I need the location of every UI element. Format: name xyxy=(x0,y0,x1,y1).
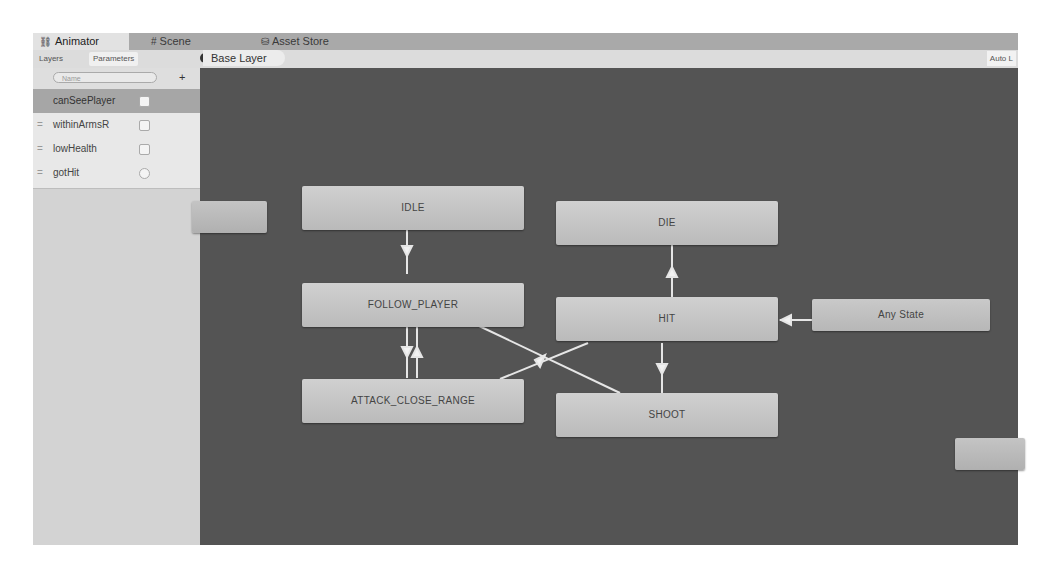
state-node-attack-close-range[interactable]: ATTACK_CLOSE_RANGE xyxy=(302,379,524,423)
tab-layers[interactable]: Layers xyxy=(35,52,67,66)
parameter-name: withinArmsR xyxy=(53,113,109,137)
tab-label: Scene xyxy=(160,35,191,47)
parameter-name: lowHealth xyxy=(53,137,97,161)
search-row: Name + xyxy=(33,68,200,89)
drag-handle-icon[interactable]: = xyxy=(37,161,43,185)
state-node-shoot[interactable]: SHOOT xyxy=(556,393,778,437)
tab-parameters[interactable]: Parameters xyxy=(89,52,138,66)
parameter-name: gotHit xyxy=(53,161,79,185)
breadcrumb-base-layer[interactable]: Base Layer xyxy=(203,50,285,66)
tab-animator[interactable]: ⛓Animator xyxy=(33,33,129,50)
parameters-panel: Name + canSeePlayer = withinArmsR = lowH… xyxy=(33,68,200,545)
state-node-offscreen-left[interactable] xyxy=(192,201,267,233)
asset-store-icon: ⛁ xyxy=(261,36,269,47)
auto-live-link-button[interactable]: Auto L xyxy=(987,51,1016,66)
animator-toolbar: Layers Parameters eye Base Layer Auto L xyxy=(33,50,1018,68)
state-node-follow-player[interactable]: FOLLOW_PLAYER xyxy=(302,283,524,327)
animator-window: ⛓Animator #Scene ⛁Asset Store Layers Par… xyxy=(33,33,1018,545)
tab-label: Asset Store xyxy=(272,35,329,47)
drag-handle-icon[interactable]: = xyxy=(37,137,43,161)
parameter-search-input[interactable]: Name xyxy=(53,72,157,83)
bool-checkbox[interactable] xyxy=(139,120,150,131)
parameter-name: canSeePlayer xyxy=(53,89,115,113)
add-parameter-button[interactable]: + xyxy=(179,71,185,83)
state-node-any-state[interactable]: Any State xyxy=(812,299,990,331)
state-node-offscreen-right[interactable] xyxy=(955,438,1025,470)
parameter-list: canSeePlayer = withinArmsR = lowHealth =… xyxy=(33,89,200,189)
trigger-radio[interactable] xyxy=(139,168,150,179)
animator-icon: ⛓ xyxy=(39,36,52,47)
bool-checkbox[interactable] xyxy=(139,144,150,155)
tab-asset-store[interactable]: ⛁Asset Store xyxy=(261,33,329,50)
scene-icon: # xyxy=(151,36,157,47)
window-tab-bar: ⛓Animator #Scene ⛁Asset Store xyxy=(33,33,1018,50)
bool-checkbox[interactable] xyxy=(139,96,150,107)
parameter-item[interactable]: = withinArmsR xyxy=(33,113,200,137)
state-machine-graph[interactable]: IDLE FOLLOW_PLAYER ATTACK_CLOSE_RANGE DI… xyxy=(200,68,1018,545)
state-node-die[interactable]: DIE xyxy=(556,201,778,245)
state-node-hit[interactable]: HIT xyxy=(556,297,778,341)
parameter-item[interactable]: = lowHealth xyxy=(33,137,200,161)
state-node-idle[interactable]: IDLE xyxy=(302,186,524,230)
tab-scene[interactable]: #Scene xyxy=(151,33,191,50)
parameter-item[interactable]: = gotHit xyxy=(33,161,200,185)
parameter-item[interactable]: canSeePlayer xyxy=(33,89,200,113)
tab-label: Animator xyxy=(55,35,99,47)
drag-handle-icon[interactable]: = xyxy=(37,113,43,137)
